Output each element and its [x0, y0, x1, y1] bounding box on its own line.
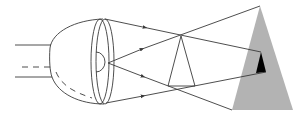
eye-optics-diagram [0, 0, 301, 120]
small-triangle [168, 36, 195, 86]
optic-tube [15, 45, 52, 77]
retina-half-circle [96, 52, 105, 72]
